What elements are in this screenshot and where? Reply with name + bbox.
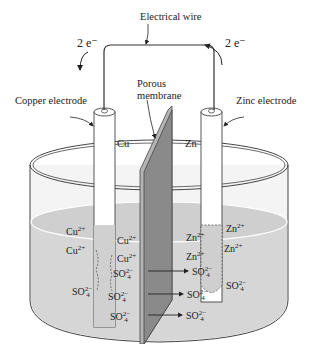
cell-diagram xyxy=(0,0,318,344)
electron-flow-arrow-left xyxy=(80,52,88,70)
ion-cu2plus: Cu2+ xyxy=(66,226,85,237)
ion-zn2plus: Zn2+ xyxy=(226,223,245,234)
wire-label: Electrical wire xyxy=(140,12,202,23)
ion-sulfate: SO2−4 xyxy=(187,289,205,302)
ion-sulfate: SO2−4 xyxy=(186,310,204,323)
ion-cu2plus: Cu2+ xyxy=(66,245,85,256)
ion-sulfate: SO2−4 xyxy=(113,268,131,281)
cu-label: Cu xyxy=(117,139,129,150)
ion-sulfate: SO2−4 xyxy=(108,291,126,304)
electrons-right-label: 2 e⁻ xyxy=(225,37,246,49)
ion-sulfate: SO2−4 xyxy=(72,286,90,299)
membrane-label-line2: membrane xyxy=(137,91,181,102)
ion-sulfate: SO2−4 xyxy=(226,280,244,293)
ion-cu2plus: Cu2+ xyxy=(117,253,136,264)
ion-sulfate: SO2−4 xyxy=(110,311,128,324)
ion-zn2plus: Zn2+ xyxy=(186,251,205,262)
copper-electrode-label: Copper electrode xyxy=(15,96,87,107)
ion-cu2plus: Cu2+ xyxy=(117,235,136,246)
ion-sulfate: SO2−4 xyxy=(192,266,210,279)
membrane-label-line1: Porous xyxy=(137,79,166,90)
zn-label: Zn xyxy=(185,139,197,150)
ion-zn2plus: Zn2+ xyxy=(224,243,243,254)
ion-zn2plus: Zn2+ xyxy=(186,232,205,243)
zinc-electrode-label: Zinc electrode xyxy=(236,96,296,107)
electrons-left-label: 2 e⁻ xyxy=(77,37,98,49)
